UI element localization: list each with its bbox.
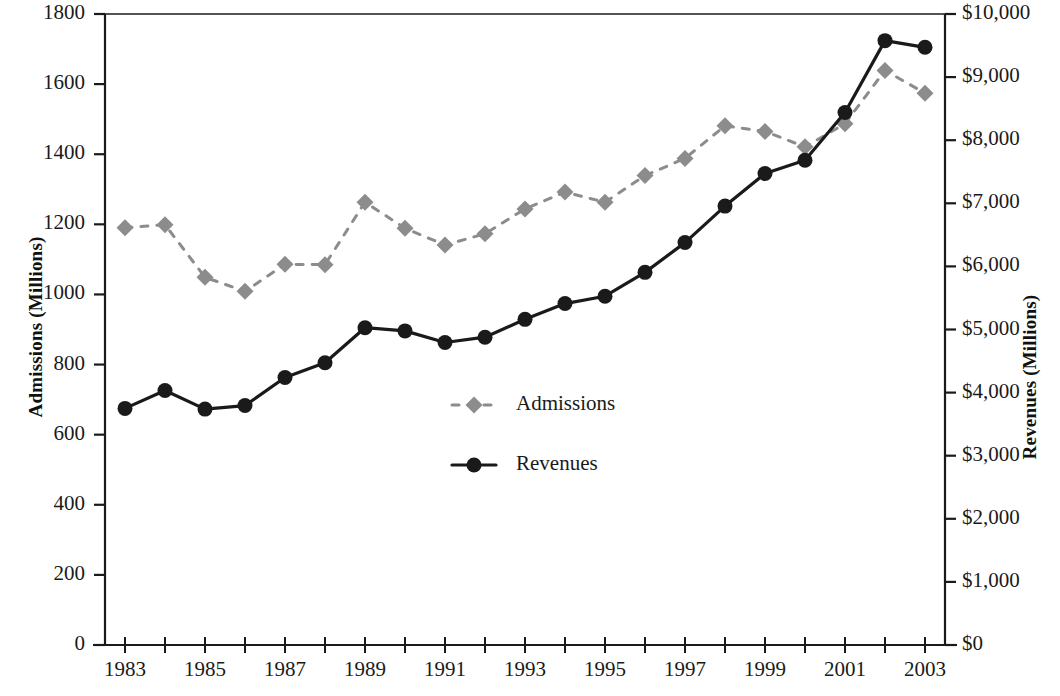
chart-figure: Admissions (Millions) Revenues (Millions… (0, 0, 1060, 696)
data-point-revenues (318, 355, 333, 370)
data-point-revenues (118, 401, 133, 416)
data-point-revenues (918, 40, 933, 55)
series-line-admissions (125, 70, 925, 291)
data-point-admissions (877, 62, 894, 79)
data-point-revenues (278, 370, 293, 385)
data-point-revenues (718, 199, 733, 214)
data-point-revenues (798, 153, 813, 168)
data-point-revenues (598, 289, 613, 304)
series-line-revenues (125, 41, 925, 410)
data-point-revenues (198, 402, 213, 417)
series-layer (117, 33, 934, 416)
data-point-revenues (398, 323, 413, 338)
data-point-revenues (358, 320, 373, 335)
data-point-admissions (757, 123, 774, 140)
data-point-admissions (277, 256, 294, 273)
data-point-revenues (158, 383, 173, 398)
data-point-admissions (317, 256, 334, 273)
data-point-admissions (637, 167, 654, 184)
data-point-admissions (397, 220, 414, 237)
data-point-admissions (117, 219, 134, 236)
data-point-revenues (438, 335, 453, 350)
legend-marker-circle (467, 458, 482, 473)
axes-lines (93, 14, 957, 653)
data-point-revenues (518, 312, 533, 327)
legend-marker-diamond (466, 397, 483, 414)
data-point-admissions (357, 194, 374, 211)
legend-markers (452, 397, 496, 473)
data-point-revenues (878, 33, 893, 48)
legend-label-revenues: Revenues (516, 451, 598, 476)
data-point-admissions (917, 85, 934, 102)
plot-area (0, 0, 1060, 696)
data-point-admissions (557, 184, 574, 201)
data-point-revenues (638, 265, 653, 280)
data-point-revenues (838, 105, 853, 120)
data-point-revenues (678, 235, 693, 250)
data-point-admissions (517, 200, 534, 217)
data-point-admissions (437, 237, 454, 254)
data-point-admissions (597, 194, 614, 211)
data-point-revenues (558, 296, 573, 311)
data-point-admissions (237, 283, 254, 300)
data-point-admissions (477, 225, 494, 242)
data-point-revenues (238, 398, 253, 413)
data-point-revenues (758, 166, 773, 181)
data-point-revenues (478, 330, 493, 345)
legend-label-admissions: Admissions (516, 391, 615, 416)
